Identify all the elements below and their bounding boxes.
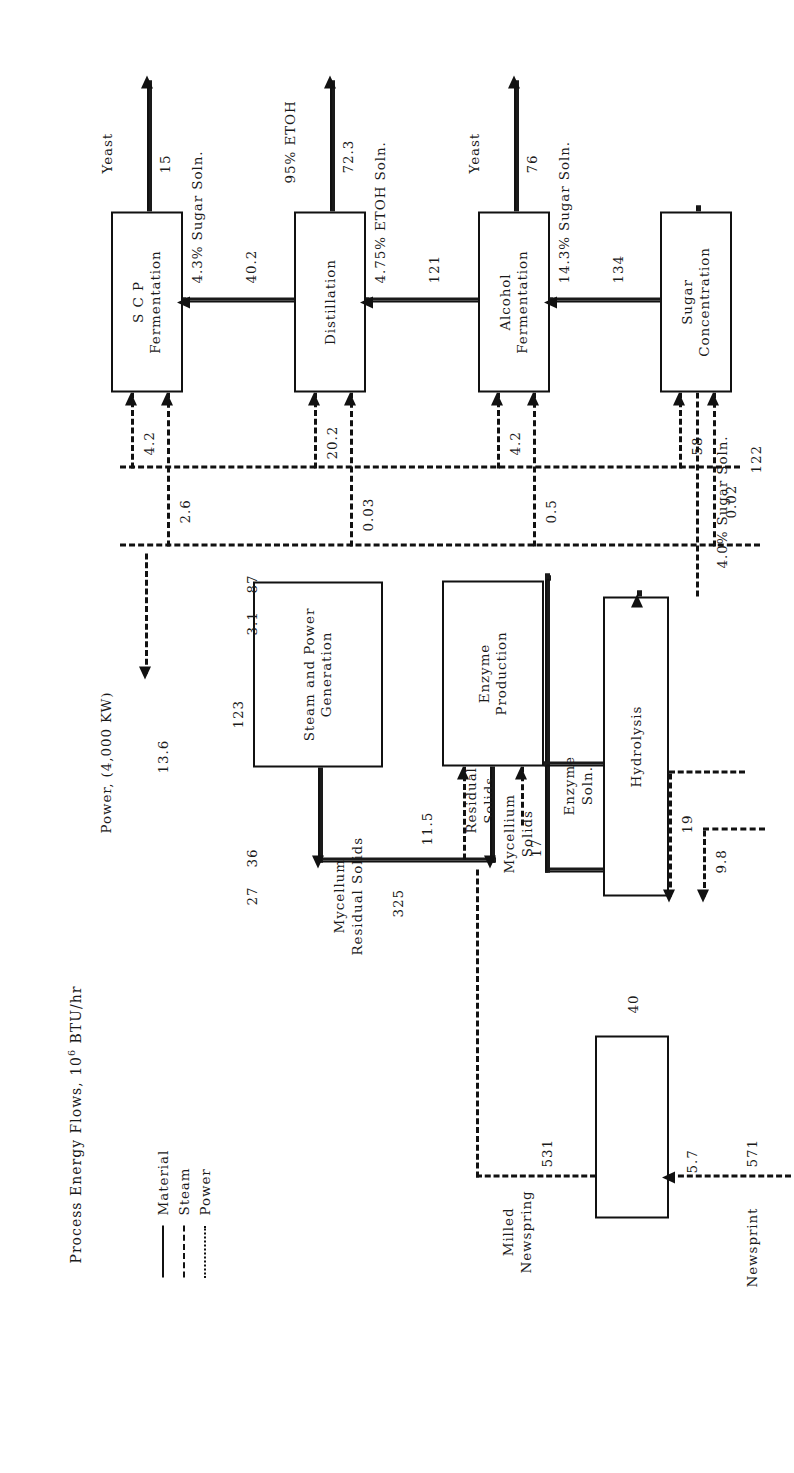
legend-label-steam: Steam <box>176 1167 192 1215</box>
arrow-alcohol-to-distillation <box>360 296 373 308</box>
block-distillation[interactable]: Distillation <box>294 211 366 392</box>
label-enzyme-power: 11.5 <box>419 811 437 845</box>
legend-key-steam <box>183 1225 185 1277</box>
block-sugar-concentration[interactable]: Sugar Concentration <box>660 211 732 392</box>
label-steam-bus-87: 87 <box>244 574 262 593</box>
legend-label-material: Material <box>155 1149 171 1215</box>
label-sugar43-name: 4.3% Sugar Soln. <box>189 150 207 283</box>
flow-mycellum-residual-arrow <box>312 855 324 868</box>
label-etoh475-name: 4.75% ETOH Soln. <box>372 141 390 283</box>
flow-mycellum-residual-h <box>318 761 323 862</box>
link-alcohol-to-distillation <box>366 297 484 302</box>
block-milling[interactable] <box>595 1035 669 1218</box>
link-distillation-to-scp <box>183 297 300 302</box>
label-etoh95-value: 72.3 <box>340 139 358 173</box>
label-distillation-steam: 20.2 <box>324 425 342 459</box>
label-power-out-name: Power, (4,000 KW) <box>98 691 116 833</box>
label-hydrolysis-steam: 19 <box>679 814 697 833</box>
label-mycellium-solids: Mycellium Solids <box>500 793 536 873</box>
label-etoh475-value: 121 <box>426 255 444 283</box>
arrow-distillation-power <box>344 392 356 405</box>
flow-sugar143-line <box>696 205 701 211</box>
label-mycellum-residual: Mycellum Residual Solids <box>330 837 366 955</box>
exit-yeast2-line <box>147 80 152 211</box>
label-sugar143-name2: 14.3% Sugar Soln. <box>556 140 574 283</box>
exit-yeast2-arrow <box>141 75 153 88</box>
flow-newsprint-arrow <box>662 1171 675 1183</box>
label-newsprint-name: Newsprint <box>744 1207 762 1287</box>
label-sugarconc-steam: 58 <box>689 436 707 455</box>
label-power-bus-3-1: 3.1 <box>244 611 262 635</box>
power-bus-right <box>120 543 760 546</box>
arrow-distillation-steam <box>308 392 320 405</box>
loop-residual-solids-h <box>545 573 550 872</box>
legend-label-power: Power <box>197 1168 213 1215</box>
process-flow-diagram: Hydrolysis Enzyme Production Steam and P… <box>0 0 794 1473</box>
stub-hydrolysis-steam-h <box>669 773 672 896</box>
block-hydrolysis[interactable]: Hydrolysis <box>603 596 669 896</box>
block-steam-power-generation[interactable]: Steam and Power Generation <box>253 581 383 767</box>
flow-sugar40-line <box>696 392 699 596</box>
block-scp-fermentation[interactable]: S C P Fermentation <box>111 211 183 392</box>
arrow-distillation-to-scp <box>177 296 190 308</box>
stub-scp-power <box>167 392 170 546</box>
label-sugar143-value: 134 <box>610 255 628 283</box>
label-alcohol-steam: 4.2 <box>507 431 525 455</box>
label-hydrolysis-power: 9.8 <box>713 849 731 873</box>
stub-hydrolysis-power-h <box>703 830 706 896</box>
label-power-out-value: 13.6 <box>155 739 173 773</box>
label-lower-power-27: 27 <box>244 886 262 905</box>
loop-residual-solids-v2 <box>545 575 551 580</box>
stub-alcohol-power <box>533 392 536 546</box>
legend-item-power: Power <box>194 1149 215 1277</box>
link-sugarconc-to-alcohol <box>550 297 666 302</box>
label-scp-steam: 4.2 <box>141 431 159 455</box>
arrow-enzyme-steam2 <box>515 766 527 779</box>
label-yeast2-name: Yeast <box>99 132 117 173</box>
caption-post: BTU/hr <box>68 985 84 1048</box>
label-newsprint-value: 571 <box>744 1139 762 1167</box>
block-alcohol-fermentation[interactable]: Alcohol Fermentation <box>478 211 550 392</box>
exit-etoh95-line <box>330 80 335 211</box>
arrow-sugarconc-power <box>707 392 719 405</box>
exit-yeast1-line <box>514 80 519 211</box>
flow-milled-newspring-h <box>476 869 479 1177</box>
arrow-alcohol-power <box>527 392 539 405</box>
label-enzyme-soln: Enzyme Soln. <box>560 756 596 815</box>
power-out-arrow <box>139 666 151 679</box>
label-etoh95-name: 95% ETOH <box>282 100 300 183</box>
label-milling-steam: 40 <box>625 994 643 1013</box>
loop-residual-solids-v1 <box>545 867 609 872</box>
power-out-line <box>145 553 148 673</box>
stub-hydrolysis-steam-v <box>669 770 745 773</box>
flow-enzyme-soln-arrow <box>631 594 643 607</box>
arrow-alcohol-steam <box>491 392 503 405</box>
arrow-scp-power <box>161 392 173 405</box>
label-distillation-power: 0.03 <box>360 497 378 531</box>
arrow-sugarconc-to-alcohol <box>544 296 557 308</box>
legend: Material Steam Power <box>152 1149 215 1277</box>
label-milled-newspring-value: 531 <box>539 1139 557 1167</box>
label-yeast1-value: 76 <box>524 154 542 173</box>
arrow-scp-steam <box>125 392 137 405</box>
arrow-sugarconc-steam <box>673 392 685 405</box>
steam-bus-right <box>120 465 740 468</box>
legend-item-material: Material <box>152 1149 173 1277</box>
label-enzyme-steam-a: 17 <box>528 838 546 857</box>
label-yeast2-value: 15 <box>157 154 175 173</box>
figure-caption: Process Energy Flows, 106 BTU/hr <box>66 985 84 1263</box>
label-mycellum-residual-value: 325 <box>390 889 408 917</box>
exit-yeast1-arrow <box>508 75 520 88</box>
caption-pre: Process Energy Flows, 10 <box>68 1055 84 1263</box>
arrow-hydrolysis-steam <box>663 889 675 902</box>
stub-hydrolysis-power-v <box>703 827 765 830</box>
label-alcohol-power: 0.5 <box>543 499 561 523</box>
flow-mycellium-solids-arrow <box>484 855 496 868</box>
flow-milled-newspring-line <box>476 1174 596 1177</box>
legend-key-power <box>204 1225 206 1277</box>
block-enzyme-production[interactable]: Enzyme Production <box>442 580 544 766</box>
stub-distillation-power <box>350 392 353 546</box>
label-milling-power: 5.7 <box>684 1149 702 1173</box>
legend-item-steam: Steam <box>173 1149 194 1277</box>
label-yeast1-name: Yeast <box>466 132 484 173</box>
